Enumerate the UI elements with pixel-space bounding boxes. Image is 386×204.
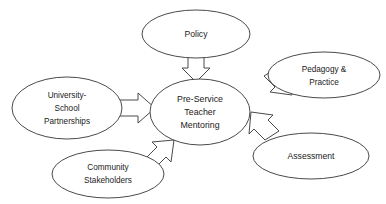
node-pedagogy-practice[interactable]: Pedagogy & Practice — [268, 52, 380, 98]
node-center-label-line1: Pre-Service — [177, 94, 223, 104]
node-center-label-line2: Teacher — [184, 107, 215, 117]
node-policy[interactable]: Policy — [142, 10, 250, 58]
node-pedagogy-practice-label-line2: Practice — [309, 78, 339, 87]
node-policy-label: Policy — [185, 29, 209, 39]
node-university-school-partnerships-label-line1: University- — [48, 91, 87, 100]
node-community-stakeholders-label-line1: Community — [87, 163, 129, 172]
diagram-svg: Policy Pedagogy & Practice Assessment Co… — [0, 0, 386, 204]
node-community-stakeholders[interactable]: Community Stakeholders — [52, 150, 164, 198]
node-assessment-label: Assessment — [288, 151, 335, 161]
node-university-school-partnerships[interactable]: University- School Partnerships — [12, 77, 122, 139]
node-assessment[interactable]: Assessment — [253, 133, 369, 179]
node-university-school-partnerships-label-line2: School — [54, 104, 79, 113]
node-community-stakeholders-label-line2: Stakeholders — [84, 176, 132, 185]
node-community-stakeholders-ellipse — [52, 150, 164, 198]
node-university-school-partnerships-label-line3: Partnerships — [44, 117, 90, 126]
diagram-canvas: Policy Pedagogy & Practice Assessment Co… — [0, 0, 386, 204]
arrow-assessment-to-center — [249, 112, 279, 140]
node-pedagogy-practice-label-line1: Pedagogy & — [302, 65, 347, 74]
node-pedagogy-practice-ellipse — [268, 52, 380, 98]
node-center-pre-service-teacher-mentoring[interactable]: Pre-Service Teacher Mentoring — [150, 79, 250, 145]
node-center-label-line3: Mentoring — [180, 120, 219, 130]
